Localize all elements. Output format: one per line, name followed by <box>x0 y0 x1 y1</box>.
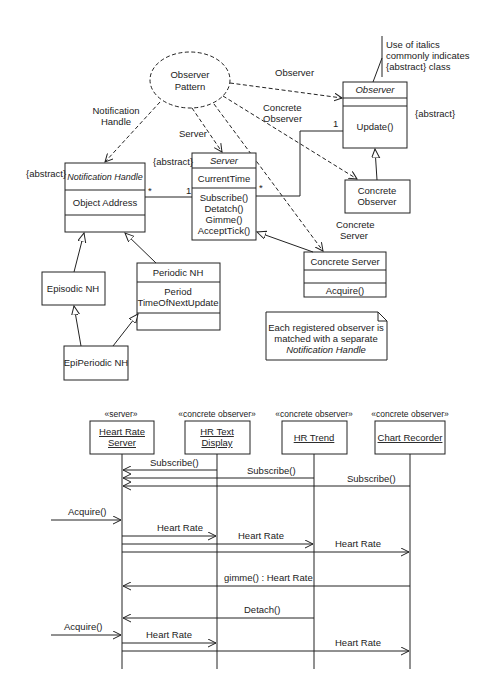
class-name: Concrete <box>358 185 397 196</box>
role-label: Observer <box>275 67 314 78</box>
role-label: Server <box>179 128 207 139</box>
observer-pattern-diagram: Observer Pattern Notification Handle Ser… <box>0 0 482 693</box>
abstract-constraint: {abstract} <box>26 168 66 179</box>
message-label: Acquire() <box>64 621 103 632</box>
association-server-observer <box>256 131 343 196</box>
generalization-periodic-nh <box>125 233 156 263</box>
multiplicity: 1 <box>333 118 338 129</box>
class-concrete-observer: Concrete Observer <box>345 180 410 213</box>
annotation-text: {abstract} class <box>386 61 451 72</box>
multiplicity: * <box>259 182 263 193</box>
class-name: Notification Handle <box>67 172 143 182</box>
generalization-epiperiodic-periodic <box>113 314 138 346</box>
message-label: Heart Rate <box>238 530 284 541</box>
lifeline-name: HR Trend <box>294 432 335 443</box>
note-text: matched with a separate <box>274 333 378 344</box>
class-name: Periodic NH <box>153 267 204 278</box>
annotation-text: Use of italics <box>386 39 440 50</box>
generalization-concrete-server <box>257 232 313 252</box>
attribute: Object Address <box>73 197 138 208</box>
class-observer: Observer Update() {abstract} <box>343 82 455 148</box>
message-label: Detach() <box>244 604 280 615</box>
class-notification-handle: Notification Handle Object Address {abst… <box>26 163 145 232</box>
message-label: Subscribe() <box>347 473 396 484</box>
note-text: Notification Handle <box>286 344 366 355</box>
lifeline-stereotype: «server» <box>104 409 137 419</box>
operation: Acquire() <box>326 285 365 296</box>
operation: AcceptTick() <box>198 225 250 236</box>
class-name: Observer <box>355 84 395 95</box>
role-label: Concrete <box>263 102 302 113</box>
lifeline-heart-rate-server: Heart Rate Server <box>90 421 154 454</box>
lifeline-name: Heart Rate <box>99 426 145 437</box>
lifeline-hr-text-display: HR Text Display <box>185 421 250 454</box>
lifeline-stereotype: «concrete observer» <box>178 409 256 419</box>
multiplicity: 1 <box>186 185 191 196</box>
class-name: Observer <box>357 196 396 207</box>
role-label: Notification <box>93 105 140 116</box>
class-episodic-nh: Episodic NH <box>42 272 105 305</box>
message-label: Heart Rate <box>157 522 203 533</box>
operation: Subscribe() <box>200 192 249 203</box>
collaboration-label: Observer <box>170 69 209 80</box>
abstract-constraint: {abstract} <box>415 108 455 119</box>
lifeline-name: Server <box>108 437 136 448</box>
message-label: Heart Rate <box>335 538 381 549</box>
messages: Subscribe() Subscribe() Subscribe() Acqu… <box>51 457 410 651</box>
operation: Update() <box>357 121 394 132</box>
role-label: Concrete <box>336 219 375 230</box>
message-label: Subscribe() <box>247 465 296 476</box>
lifeline-stereotype: «concrete observer» <box>371 409 449 419</box>
annotation-text: commonly indicates <box>386 50 470 61</box>
lifeline-name: Display <box>201 437 232 448</box>
class-name: Episodic NH <box>47 283 99 294</box>
lifeline-chart-recorder: Chart Recorder <box>375 421 445 454</box>
attribute: TimeOfNextUpdate <box>138 297 219 308</box>
multiplicity: * <box>148 185 152 196</box>
message-label: Heart Rate <box>335 637 381 648</box>
lifeline-stereotype: «concrete observer» <box>275 409 353 419</box>
message-label: Heart Rate <box>146 629 192 640</box>
role-label: Handle <box>101 116 131 127</box>
operation: Gimme() <box>206 214 243 225</box>
note-text: Each registered observer is <box>268 322 384 333</box>
note: Each registered observer is matched with… <box>266 312 387 360</box>
lifeline-name: Chart Recorder <box>378 432 443 443</box>
class-name: Concrete Server <box>310 256 379 267</box>
generalization-episodic-nh <box>74 233 84 272</box>
role-line-observer <box>230 83 342 98</box>
lifeline-name: HR Text <box>200 426 234 437</box>
role-label: Observer <box>263 113 302 124</box>
message-label: Subscribe() <box>150 457 199 468</box>
class-name: EpiPeriodic NH <box>64 357 129 368</box>
lifeline-hr-trend: HR Trend <box>282 421 347 454</box>
attribute: CurrentTime <box>198 173 250 184</box>
class-epiperiodic-nh: EpiPeriodic NH <box>64 346 129 380</box>
italics-annotation: Use of italics commonly indicates {abstr… <box>373 36 470 82</box>
abstract-constraint: {abstract} <box>153 156 193 167</box>
role-label: Server <box>340 230 368 241</box>
class-concrete-server: Concrete Server Acquire() <box>304 252 386 297</box>
class-periodic-nh: Periodic NH Period TimeOfNextUpdate <box>137 263 220 330</box>
attribute: Period <box>164 286 191 297</box>
collaboration-label: Pattern <box>175 81 206 92</box>
message-label: gimme() : Heart Rate <box>224 572 313 583</box>
generalization-concrete-observer <box>375 149 377 180</box>
generalization-epiperiodic-episodic <box>74 306 81 346</box>
message-label: Acquire() <box>68 506 107 517</box>
operation: Detatch() <box>204 203 243 214</box>
observer-pattern-collaboration: Observer Pattern <box>150 52 230 108</box>
class-name: Server <box>210 155 239 166</box>
